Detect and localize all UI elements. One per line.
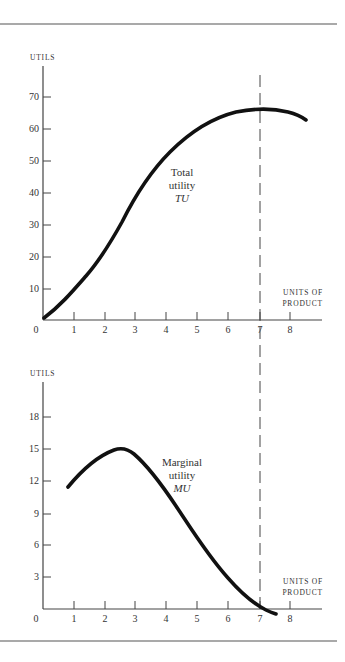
x-axis-label-line2: PRODUCT xyxy=(282,299,323,308)
x-axis-label-line1: UNITS OF xyxy=(283,577,323,586)
tu-label-line3: TU xyxy=(175,192,190,204)
mu-label-line1: Marginal xyxy=(162,456,202,468)
svg-text:1: 1 xyxy=(72,324,77,335)
svg-text:5: 5 xyxy=(195,324,200,335)
svg-text:12: 12 xyxy=(29,475,39,486)
y-ticks: 10 20 30 40 50 60 70 xyxy=(29,91,51,294)
total-utility-curve xyxy=(44,109,306,318)
tu-label-line1: Total xyxy=(171,166,193,178)
svg-text:10: 10 xyxy=(29,283,39,294)
svg-text:30: 30 xyxy=(29,219,39,230)
y-axis-label: UTILS xyxy=(30,53,55,62)
x-axis-label-line1: UNITS OF xyxy=(283,288,323,297)
svg-text:7: 7 xyxy=(258,613,263,624)
mu-label-line3: MU xyxy=(172,482,191,494)
svg-text:6: 6 xyxy=(34,539,39,550)
marginal-utility-chart: UTILS 3 6 9 12 15 18 0 1 2 3 4 5 6 7 8 U… xyxy=(29,369,323,624)
svg-text:3: 3 xyxy=(133,324,138,335)
svg-text:3: 3 xyxy=(34,571,39,582)
y-axis-label: UTILS xyxy=(30,369,55,378)
svg-text:3: 3 xyxy=(133,613,138,624)
svg-text:4: 4 xyxy=(164,613,169,624)
svg-text:0: 0 xyxy=(34,613,39,624)
svg-text:9: 9 xyxy=(34,508,39,519)
svg-text:70: 70 xyxy=(29,91,39,102)
x-axis-label-line2: PRODUCT xyxy=(282,588,323,597)
svg-text:2: 2 xyxy=(103,613,108,624)
svg-text:8: 8 xyxy=(288,324,293,335)
svg-text:40: 40 xyxy=(29,187,39,198)
svg-text:15: 15 xyxy=(29,443,39,454)
svg-text:4: 4 xyxy=(164,324,169,335)
svg-text:2: 2 xyxy=(103,324,108,335)
tu-label-line2: utility xyxy=(169,179,196,191)
svg-text:7: 7 xyxy=(258,324,263,335)
mu-label-line2: utility xyxy=(169,469,196,481)
svg-text:1: 1 xyxy=(72,613,77,624)
x-ticks: 0 1 2 3 4 5 6 7 8 xyxy=(34,312,293,335)
y-ticks: 3 6 9 12 15 18 xyxy=(29,411,51,582)
svg-text:60: 60 xyxy=(29,123,39,134)
utility-charts-figure: UTILS 10 20 30 40 50 60 70 0 1 2 3 4 5 6… xyxy=(0,0,345,662)
svg-text:6: 6 xyxy=(226,324,231,335)
svg-text:0: 0 xyxy=(34,324,39,335)
svg-text:6: 6 xyxy=(226,613,231,624)
svg-text:8: 8 xyxy=(288,613,293,624)
svg-text:20: 20 xyxy=(29,251,39,262)
svg-text:5: 5 xyxy=(195,613,200,624)
svg-text:18: 18 xyxy=(29,411,39,422)
total-utility-chart: UTILS 10 20 30 40 50 60 70 0 1 2 3 4 5 6… xyxy=(29,53,323,335)
svg-text:50: 50 xyxy=(29,155,39,166)
